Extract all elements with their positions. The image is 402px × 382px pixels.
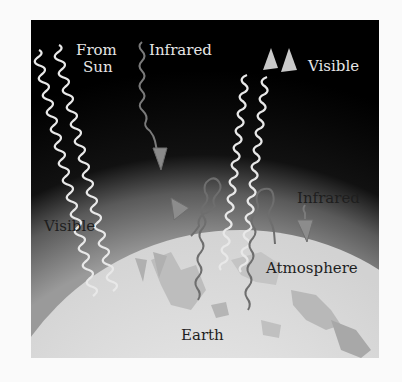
- atmosphere-label: Atmosphere: [266, 260, 358, 277]
- greenhouse-diagram: From Sun Infrared Visible Visible Infrar…: [31, 20, 379, 358]
- from-sun-label-line2: Sun: [76, 59, 117, 76]
- from-sun-label-line1: From: [76, 42, 117, 59]
- from-sun-label: From Sun: [76, 42, 117, 76]
- visible-top-label: Visible: [308, 58, 359, 75]
- infrared-top-label: Infrared: [149, 42, 212, 59]
- infrared-right-label: Infrared: [297, 190, 360, 207]
- visible-left-label: Visible: [44, 218, 95, 235]
- earth-label: Earth: [181, 327, 224, 344]
